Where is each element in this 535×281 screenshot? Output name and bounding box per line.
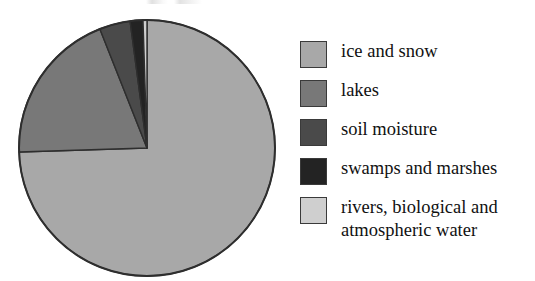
- legend-label-ice-and-snow: ice and snow: [341, 40, 438, 63]
- legend-swatch-ice-and-snow: [300, 41, 327, 68]
- pie-chart-figure: ice and snow lakes soil moisture swamps …: [0, 0, 535, 281]
- legend-label-lakes: lakes: [341, 79, 379, 102]
- legend-item-swamps-and-marshes: swamps and marshes: [300, 157, 532, 185]
- legend-label-swamps-and-marshes: swamps and marshes: [341, 157, 497, 180]
- legend-swatch-rivers-biological-atmospheric-water: [300, 197, 327, 224]
- pie-svg: [8, 6, 293, 281]
- cropped-title-remnant: [146, 0, 208, 4]
- legend-item-lakes: lakes: [300, 79, 532, 107]
- chart-legend: ice and snow lakes soil moisture swamps …: [300, 40, 532, 242]
- legend-item-soil-moisture: soil moisture: [300, 118, 532, 146]
- legend-item-ice-and-snow: ice and snow: [300, 40, 532, 68]
- pie-chart-plot-area: [8, 6, 293, 281]
- legend-label-soil-moisture: soil moisture: [341, 118, 437, 141]
- legend-swatch-soil-moisture: [300, 119, 327, 146]
- legend-swatch-lakes: [300, 80, 327, 107]
- pie-slice-group: [19, 20, 275, 276]
- legend-item-rivers-biological-atmospheric-water: rivers, biological and atmospheric water: [300, 196, 532, 242]
- legend-swatch-swamps-and-marshes: [300, 158, 327, 185]
- legend-label-rivers-biological-atmospheric-water: rivers, biological and atmospheric water: [341, 196, 498, 242]
